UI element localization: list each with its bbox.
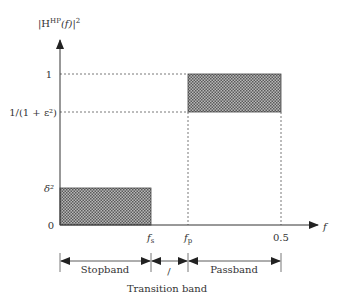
transition-slash: / (167, 266, 171, 277)
filter-spec-diagram: |HHP(f)|2 1 1/(1 + ε²) δ² 0 fs fp 0.5 f … (0, 0, 346, 305)
x-axis-label: f (322, 221, 329, 232)
y-tick-1: 1 (46, 69, 52, 80)
x-tick-fp: fp (183, 232, 193, 245)
passband-label: Passband (210, 264, 258, 275)
x-tick-fs: fs (146, 232, 155, 245)
y-axis-label: |HHP(f)|2 (38, 17, 80, 30)
y-tick-delta: δ² (44, 183, 54, 194)
stopband-region (60, 188, 151, 225)
passband-region (188, 74, 281, 112)
transition-band-label: Transition band (127, 283, 208, 294)
y-tick-ripple: 1/(1 + ε²) (9, 107, 57, 118)
stopband-label: Stopband (81, 264, 130, 275)
y-tick-0: 0 (48, 220, 54, 231)
x-tick-05: 0.5 (273, 232, 289, 243)
